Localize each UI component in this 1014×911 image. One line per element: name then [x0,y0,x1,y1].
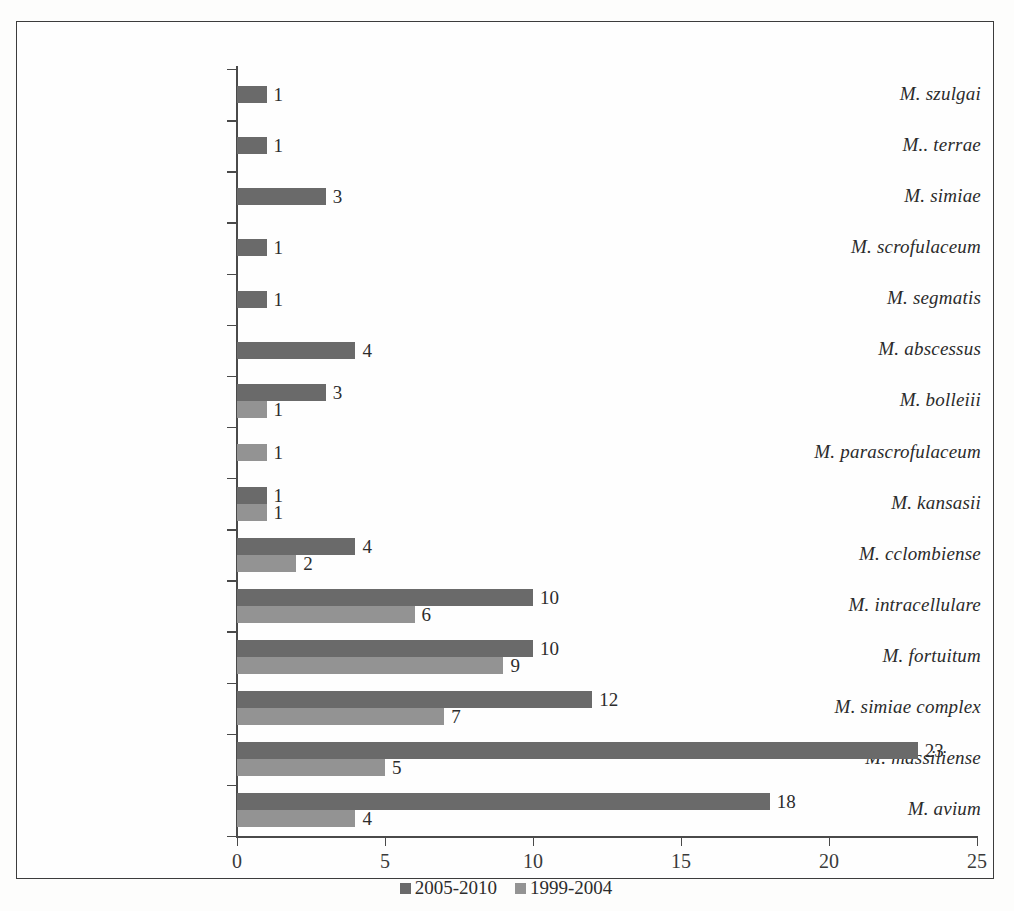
bar-value-label: 7 [451,708,461,725]
legend-item-1999-2004[interactable]: 1999-2004 [515,877,612,899]
category-tick [227,222,237,223]
bar-2005-2010-M. simiae complex [237,691,592,708]
legend-item-2005-2010[interactable]: 2005-2010 [400,877,497,899]
bar-1999-2004-M. avium [237,810,355,827]
bar-2005-2010-M. kansasii [237,487,267,504]
category-tick [227,274,237,275]
bar-value-label: 1 [274,137,284,154]
bar-value-label: 4 [362,538,372,555]
legend-label: 2005-2010 [415,877,497,898]
value-tick [829,836,830,846]
category-tick [227,836,237,837]
category-tick [227,580,237,581]
category-tick [227,734,237,735]
value-tick [385,836,386,846]
legend-label: 1999-2004 [530,877,612,898]
bar-2005-2010-M. cclombiense [237,538,355,555]
bar-2005-2010-M. segmatis [237,291,267,308]
bar-1999-2004-M. parascrofulaceum [237,444,267,461]
value-axis-line [236,836,978,838]
category-tick [227,529,237,530]
bar-value-label: 3 [333,384,343,401]
bar-1999-2004-M. cclombiense [237,555,296,572]
bar-value-label: 5 [392,759,402,776]
bar-1999-2004-M. intracellulare [237,606,415,623]
bar-value-label: 1 [274,291,284,308]
category-tick [227,427,237,428]
chart-page: 0510152025 M. szulgaiM.. terraeM. simiae… [0,0,1014,911]
bar-2005-2010-M. fortuitum [237,640,533,657]
bar-value-label: 9 [510,657,520,674]
bar-value-label: 1 [274,444,284,461]
value-tick-label: 25 [967,850,987,873]
category-tick [227,120,237,121]
category-tick [227,478,237,479]
bar-2005-2010-M. intracellulare [237,589,533,606]
category-tick [227,171,237,172]
bar-value-label: 18 [777,793,796,810]
bar-2005-2010-M. avium [237,793,770,810]
chart-frame: 0510152025 M. szulgaiM.. terraeM. simiae… [16,21,994,879]
value-tick-label: 20 [819,850,839,873]
bar-value-label: 6 [422,606,432,623]
bar-1999-2004-M. bolleiii [237,401,267,418]
plot-area: 1131143111142106109127235184 [237,69,977,836]
bar-value-label: 4 [362,810,372,827]
bar-2005-2010-M. simiae [237,188,326,205]
category-tick [227,683,237,684]
chart-legend: 2005-20101999-2004 [17,877,995,899]
legend-swatch-icon [515,883,526,894]
category-tick [227,69,237,70]
bar-value-label: 4 [362,342,372,359]
bar-value-label: 1 [274,401,284,418]
bar-value-label: 10 [540,640,559,657]
bar-value-label: 1 [274,239,284,256]
bar-2005-2010-M. scrofulaceum [237,239,267,256]
bar-value-label: 2 [303,555,313,572]
value-tick-label: 5 [380,850,390,873]
category-tick [227,631,237,632]
bar-value-label: 3 [333,188,343,205]
bar-1999-2004-M. simiae complex [237,708,444,725]
value-tick [237,836,238,846]
value-tick-label: 10 [523,850,543,873]
value-tick-label: 15 [671,850,691,873]
bar-1999-2004-M. kansasii [237,504,267,521]
bar-1999-2004-M. fortuitum [237,657,503,674]
bar-2005-2010-M. szulgai [237,86,267,103]
bar-2005-2010-M.. terrae [237,137,267,154]
bar-value-label: 12 [599,691,618,708]
category-tick [227,785,237,786]
bar-1999-2004-M. massiliense [237,759,385,776]
bar-2005-2010-M. massiliense [237,742,918,759]
bar-2005-2010-M. abscessus [237,342,355,359]
value-tick [681,836,682,846]
value-tick-label: 0 [232,850,242,873]
bar-value-label: 10 [540,589,559,606]
bar-value-label: 1 [274,86,284,103]
bar-value-label: 1 [274,504,284,521]
bar-value-label: 23 [925,742,944,759]
legend-swatch-icon [400,883,411,894]
value-tick [977,836,978,846]
category-tick [227,325,237,326]
category-tick [227,376,237,377]
value-tick [533,836,534,846]
